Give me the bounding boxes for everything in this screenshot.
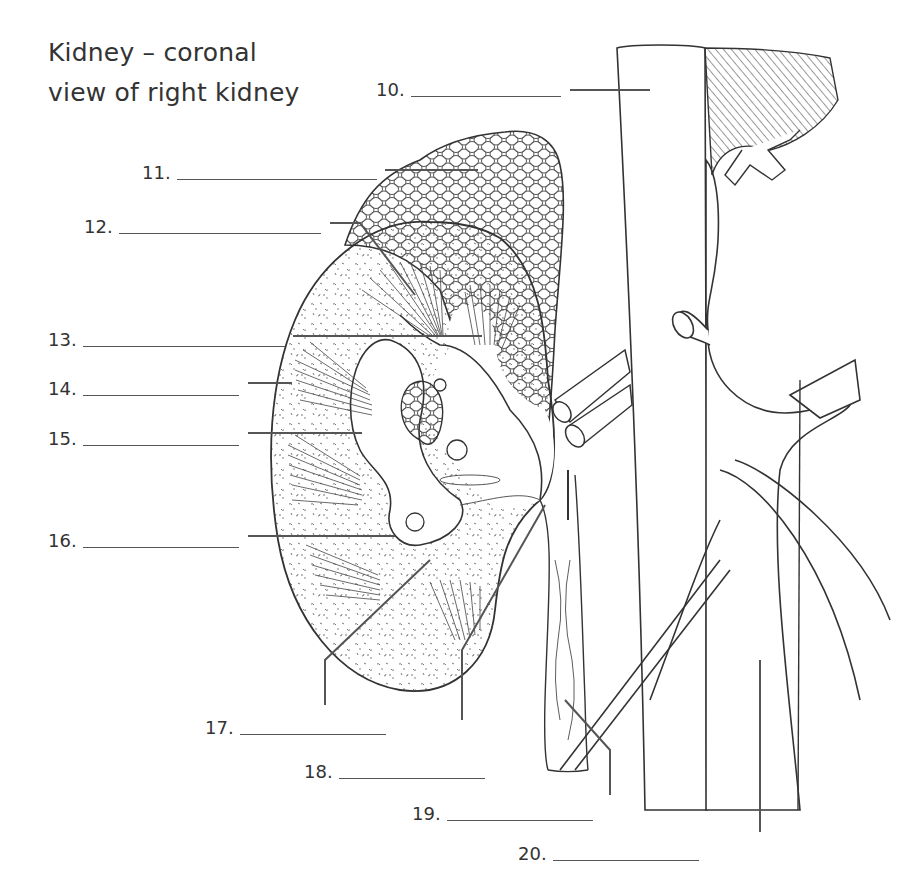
diaphragm — [705, 48, 838, 185]
label-14: 14. — [48, 375, 239, 399]
label-number: 14. — [48, 379, 77, 399]
ureter — [540, 470, 588, 772]
answer-blank-19[interactable] — [447, 819, 593, 821]
answer-blank-18[interactable] — [339, 777, 485, 779]
label-10: 10. — [376, 76, 561, 100]
label-19: 19. — [412, 800, 593, 824]
answer-blank-12[interactable] — [119, 232, 321, 234]
label-number: 12. — [84, 217, 113, 237]
answer-blank-15[interactable] — [83, 444, 239, 446]
label-number: 15. — [48, 429, 77, 449]
label-number: 19. — [412, 804, 441, 824]
label-12: 12. — [84, 213, 321, 237]
label-17: 17. — [205, 714, 386, 738]
label-number: 17. — [205, 718, 234, 738]
label-number: 11. — [142, 163, 171, 183]
label-number: 16. — [48, 531, 77, 551]
label-16: 16. — [48, 527, 239, 551]
label-13: 13. — [48, 326, 285, 350]
label-11: 11. — [142, 159, 377, 183]
answer-blank-11[interactable] — [177, 178, 377, 180]
inferior-vena-cava — [617, 45, 707, 810]
answer-blank-20[interactable] — [553, 859, 699, 861]
renal-vessels — [549, 350, 632, 450]
answer-blank-14[interactable] — [83, 394, 239, 396]
answer-blank-16[interactable] — [83, 546, 239, 548]
answer-blank-17[interactable] — [240, 733, 386, 735]
label-18: 18. — [304, 758, 485, 782]
label-number: 13. — [48, 330, 77, 350]
label-15: 15. — [48, 425, 239, 449]
aorta — [560, 160, 890, 810]
answer-blank-10[interactable] — [411, 95, 561, 97]
answer-blank-13[interactable] — [83, 345, 285, 347]
label-number: 10. — [376, 80, 405, 100]
label-number: 20. — [518, 844, 547, 864]
label-number: 18. — [304, 762, 333, 782]
label-20: 20. — [518, 840, 699, 864]
